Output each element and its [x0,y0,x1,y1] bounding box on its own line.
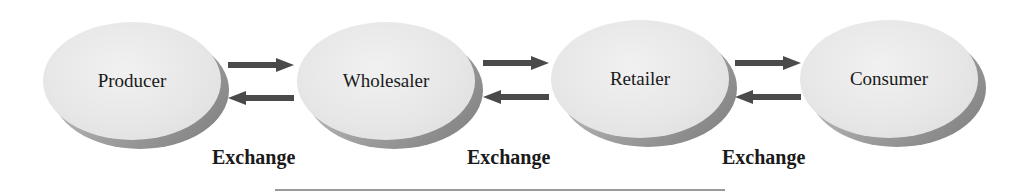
node-label: Retailer [610,68,670,90]
arrow-right-icon [228,58,294,72]
divider-line [275,189,725,191]
exchange-label: Exchange [467,146,550,169]
node-label: Wholesaler [343,70,430,92]
node-producer: Producer [43,22,221,142]
exchange-label: Exchange [212,146,295,169]
arrow-right-icon [735,56,801,70]
node-wholesaler: Wholesaler [297,22,475,142]
node-label: Producer [98,70,167,92]
arrow-left-icon [735,90,801,104]
arrow-left-icon [483,90,549,104]
node-label: Consumer [850,68,928,90]
node-consumer: Consumer [800,20,978,140]
arrow-left-icon [228,91,294,105]
arrow-right-icon [483,56,549,70]
node-retailer: Retailer [551,20,729,140]
exchange-label: Exchange [722,146,805,169]
